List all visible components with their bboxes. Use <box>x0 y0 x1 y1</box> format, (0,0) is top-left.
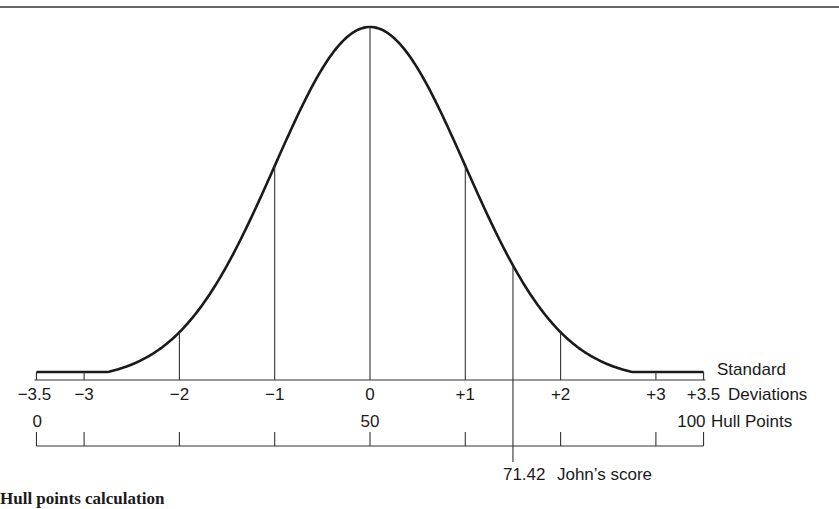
johns-score-marker: 71.42John’s score <box>503 265 652 484</box>
johns-score-label: John’s score <box>557 465 652 484</box>
sd-tick-label: +3 <box>646 385 665 404</box>
sd-tick-label: −3 <box>74 385 93 404</box>
hull-label: 0 <box>32 412 41 431</box>
sd-tick-label: +3.5 <box>687 385 721 404</box>
hull-label: 50 <box>361 412 380 431</box>
sd-axis-title-line2: Deviations <box>728 385 807 404</box>
sd-tick-label: −1 <box>265 385 284 404</box>
sd-tick-label: +1 <box>456 385 475 404</box>
sd-tick-label: 0 <box>365 385 374 404</box>
johns-score-value: 71.42 <box>503 465 546 484</box>
figure-caption: Hull points calculation <box>0 489 164 509</box>
sd-axis-title-line1: Standard <box>717 360 786 379</box>
hull-label: 100 <box>677 412 705 431</box>
hull-axis-title: Hull Points <box>711 412 792 431</box>
sd-tick-label: −3.5 <box>18 385 52 404</box>
sd-axis: −3.5−3−2−10+1+2+3+3.5StandardDeviations <box>18 360 808 404</box>
sd-tick-label: −2 <box>170 385 189 404</box>
hull-points-axis: 050100Hull Points <box>32 412 792 446</box>
sd-tick-label: +2 <box>551 385 570 404</box>
sd-vertical-lines <box>36 27 703 380</box>
